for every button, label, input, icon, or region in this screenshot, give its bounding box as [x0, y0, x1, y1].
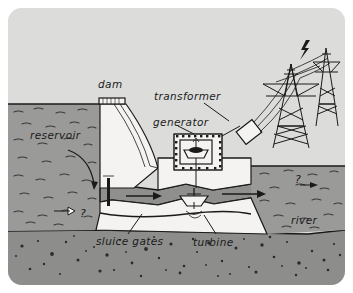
label-dam: dam	[98, 78, 123, 90]
hydroelectric-dam-diagram: ? ? dam reservoir transformer generator …	[8, 8, 345, 285]
question-mark-reservoir: ?	[80, 207, 86, 220]
reservoir-water	[8, 104, 100, 231]
label-river: river	[291, 214, 318, 226]
diagram-scene: ? ? dam reservoir transformer generator …	[8, 8, 345, 285]
question-mark-river: ?	[295, 173, 301, 186]
label-sluice-gates: sluice gates	[96, 235, 164, 247]
label-turbine: turbine	[193, 236, 234, 248]
label-transformer: transformer	[154, 90, 221, 102]
bedrock-layer	[8, 230, 345, 285]
label-reservoir: reservoir	[30, 129, 81, 141]
sluice-gate	[107, 178, 110, 206]
figure-card: ? ? dam reservoir transformer generator …	[8, 8, 345, 285]
dam-crest	[99, 98, 125, 104]
label-generator: generator	[153, 116, 209, 128]
